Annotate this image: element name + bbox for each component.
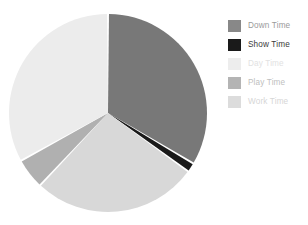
- legend-label-play-time: Play Time: [248, 77, 285, 89]
- legend-item-show-time[interactable]: Show Time: [228, 35, 308, 54]
- legend-item-work-time[interactable]: Work Time: [228, 92, 308, 111]
- legend-label-show-time: Show Time: [248, 39, 290, 51]
- legend-swatch-show-time-icon: [228, 39, 241, 51]
- chart-legend: Down Time Show Time Day Time Play Time W…: [228, 16, 308, 111]
- legend-item-play-time[interactable]: Play Time: [228, 73, 308, 92]
- legend-swatch-down-time-icon: [228, 20, 241, 32]
- legend-label-day-time: Day Time: [248, 58, 284, 70]
- legend-label-down-time: Down Time: [248, 20, 290, 32]
- legend-swatch-play-time-icon: [228, 77, 241, 89]
- legend-swatch-work-time-icon: [228, 96, 241, 108]
- legend-item-down-time[interactable]: Down Time: [228, 16, 308, 35]
- pie-chart-figure: Down Time Show Time Day Time Play Time W…: [0, 0, 308, 225]
- pie-slice-group: [9, 14, 207, 212]
- legend-item-day-time[interactable]: Day Time: [228, 54, 308, 73]
- pie-svg: [0, 0, 208, 225]
- legend-label-work-time: Work Time: [248, 96, 288, 108]
- pie-plot-area: [0, 0, 208, 225]
- legend-swatch-day-time-icon: [228, 58, 241, 70]
